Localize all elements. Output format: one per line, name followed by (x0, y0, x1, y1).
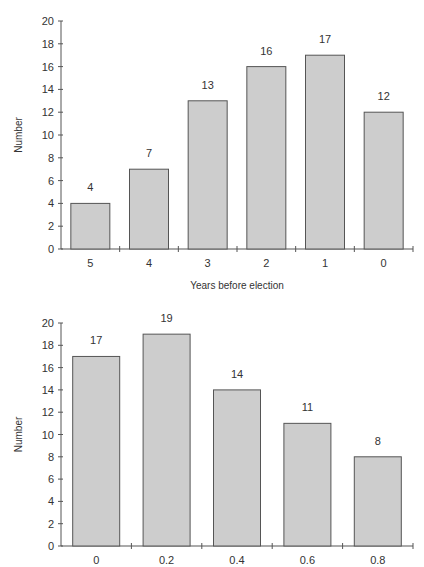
y-tick-label: 2 (48, 518, 54, 530)
chart-2-svg: 02468101214161820 00.20.40.60.8 17191411… (0, 0, 424, 567)
bar (354, 457, 401, 546)
bar (73, 356, 120, 546)
bar (284, 423, 331, 546)
y-tick-label: 20 (42, 317, 54, 329)
bar-value-label: 11 (302, 401, 313, 413)
x-tick-label: 0.4 (229, 554, 244, 566)
x-tick-label: 0 (93, 554, 99, 566)
y-tick-label: 0 (48, 540, 54, 552)
bars: 171914118 (73, 312, 402, 546)
bar-value-label: 14 (231, 368, 243, 380)
y-tick-label: 6 (48, 473, 54, 485)
x-tick-label: 0.8 (370, 554, 385, 566)
bar-value-label: 17 (90, 334, 102, 346)
x-tick-label: 0.2 (159, 554, 174, 566)
y-tick-label: 16 (42, 362, 54, 374)
y-tick-label: 12 (42, 406, 54, 418)
x-tick-label: 0.6 (300, 554, 315, 566)
y-tick-label: 18 (42, 339, 54, 351)
bar-value-label: 19 (160, 312, 172, 324)
y-axis-title: Number (13, 416, 24, 452)
y-axis: 02468101214161820 (42, 317, 63, 552)
y-tick-label: 8 (48, 451, 54, 463)
bar (143, 334, 190, 546)
y-tick-label: 14 (42, 384, 54, 396)
bar (214, 390, 261, 546)
y-tick-label: 10 (42, 429, 54, 441)
y-tick-label: 4 (48, 495, 54, 507)
bar-value-label: 8 (375, 435, 381, 447)
chart-proportion: 02468101214161820 00.20.40.60.8 17191411… (0, 0, 424, 567)
